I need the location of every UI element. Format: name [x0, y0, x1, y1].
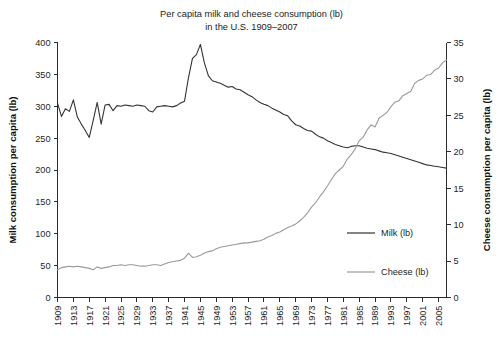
- x-tick-label: 1969: [291, 306, 301, 326]
- x-tick-label: 1949: [212, 306, 222, 326]
- x-tick-label: 1981: [339, 306, 349, 326]
- chart-svg: Per capita milk and cheese consumption (…: [0, 0, 503, 338]
- y2-tick-label: 15: [454, 184, 464, 194]
- x-tick-label: 1965: [275, 306, 285, 326]
- x-tick-label: 1993: [386, 306, 396, 326]
- chart-title-line-2: in the U.S. 1909–2007: [205, 22, 298, 32]
- x-tick-label: 1925: [116, 306, 126, 326]
- legend-label: Cheese (lb): [381, 267, 429, 277]
- y2-tick-label: 10: [454, 220, 464, 230]
- y-tick-label: 400: [35, 38, 50, 48]
- x-tick-label: 2005: [434, 306, 444, 326]
- x-tick-label: 1937: [164, 306, 174, 326]
- x-tick-label: 1945: [196, 306, 206, 326]
- x-tick-label: 1941: [180, 306, 190, 326]
- x-tick-label: 1957: [243, 306, 253, 326]
- x-tick-label: 1909: [53, 306, 63, 326]
- y2-tick-label: 0: [454, 293, 459, 303]
- y-tick-label: 250: [35, 134, 50, 144]
- y-tick-label: 200: [35, 165, 50, 175]
- x-tick-label: 1929: [132, 306, 142, 326]
- y2-tick-label: 5: [454, 256, 459, 266]
- x-tick-label: 2001: [418, 306, 428, 326]
- y-tick-label: 0: [45, 293, 50, 303]
- y-axis-label-milk: Milk consumption per capita (lb): [7, 96, 18, 243]
- x-tick-label: 1985: [355, 306, 365, 326]
- y-tick-label: 100: [35, 229, 50, 239]
- x-tick-label: 1917: [85, 306, 95, 326]
- y-tick-label: 150: [35, 197, 50, 207]
- x-tick-label: 1989: [370, 306, 380, 326]
- x-tick-label: 1973: [307, 306, 317, 326]
- y-axis-label-cheese: Cheese consumption per capita (lb): [481, 89, 492, 252]
- x-tick-label: 1933: [148, 306, 158, 326]
- y-tick-label: 300: [35, 102, 50, 112]
- x-tick-label: 1997: [402, 306, 412, 326]
- legend-label: Milk (lb): [381, 228, 413, 238]
- chart-title-line-1: Per capita milk and cheese consumption (…: [160, 9, 343, 19]
- x-tick-label: 1977: [323, 306, 333, 326]
- y2-tick-label: 30: [454, 74, 464, 84]
- chart-background: [0, 0, 503, 338]
- x-tick-label: 1913: [69, 306, 79, 326]
- y2-tick-label: 35: [454, 38, 464, 48]
- y2-tick-label: 25: [454, 111, 464, 121]
- x-tick-label: 1953: [228, 306, 238, 326]
- y-tick-label: 50: [40, 261, 50, 271]
- y2-tick-label: 20: [454, 147, 464, 157]
- x-tick-label: 1921: [101, 306, 111, 326]
- y-tick-label: 350: [35, 70, 50, 80]
- chart-container: Per capita milk and cheese consumption (…: [0, 0, 503, 338]
- x-tick-label: 1961: [259, 306, 269, 326]
